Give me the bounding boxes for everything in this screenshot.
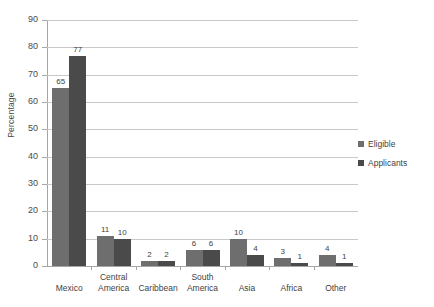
x-axis-tick-mark [314, 266, 315, 270]
chart-legend: EligibleApplicants [358, 139, 434, 177]
bar [291, 263, 308, 266]
y-axis-tick-label: 70 [8, 69, 38, 79]
y-axis-title: Percentage [6, 80, 16, 150]
bar [247, 255, 264, 266]
legend-swatch-icon [358, 141, 364, 147]
legend-label: Eligible [368, 139, 395, 149]
y-axis-tick-label: 0 [8, 260, 38, 270]
legend-label: Applicants [368, 158, 407, 168]
x-axis-tick-mark [136, 266, 137, 270]
bar-value-label: 10 [230, 228, 247, 237]
bar-value-label: 3 [274, 247, 291, 256]
y-axis-tick-label: 10 [8, 233, 38, 243]
legend-item[interactable]: Applicants [358, 158, 434, 168]
bar [69, 56, 86, 266]
x-axis-tick-mark [269, 266, 270, 270]
bar [114, 239, 131, 266]
x-axis-tick-mark [180, 266, 181, 270]
bar [203, 250, 220, 266]
y-axis-tick-label: 90 [8, 14, 38, 24]
x-axis-category-label: Asia [225, 283, 269, 294]
bar-series-group [47, 20, 358, 266]
y-axis-tick-label: 80 [8, 41, 38, 51]
bar-value-label: 10 [114, 228, 131, 237]
bar-value-label: 4 [319, 244, 336, 253]
y-axis-tick-label: 50 [8, 123, 38, 133]
x-axis-category-label: Other [314, 283, 358, 294]
bar-value-label: 77 [69, 45, 86, 54]
bar-value-label: 6 [186, 239, 203, 248]
x-axis-category-label: Mexico [47, 283, 91, 294]
bar [97, 236, 114, 266]
bar-value-label: 1 [291, 252, 308, 261]
bar-value-label: 2 [141, 250, 158, 259]
y-axis-tick-mark [42, 266, 47, 267]
x-axis-category-label: Africa [269, 283, 313, 294]
bar-chart: Percentage 0102030405060708090 657711102… [0, 0, 434, 307]
bar-value-label: 4 [247, 244, 264, 253]
bar [141, 261, 158, 266]
bar [319, 255, 336, 266]
bar-value-label: 6 [203, 239, 220, 248]
x-axis-category-label: Caribbean [136, 283, 180, 294]
y-axis-tick-label: 60 [8, 96, 38, 106]
bar [52, 88, 69, 266]
x-axis-tick-mark [91, 266, 92, 270]
bar-value-label: 65 [52, 77, 69, 86]
y-axis-tick-label: 20 [8, 205, 38, 215]
bar [230, 239, 247, 266]
bar [274, 258, 291, 266]
x-axis-category-label: Central America [91, 272, 135, 294]
y-axis-tick-label: 30 [8, 178, 38, 188]
bar-value-label: 11 [97, 225, 114, 234]
x-axis-category-label: South America [180, 272, 224, 294]
x-axis-line [47, 266, 358, 267]
bar [186, 250, 203, 266]
legend-item[interactable]: Eligible [358, 139, 434, 149]
bar-value-label: 2 [158, 250, 175, 259]
legend-swatch-icon [358, 160, 364, 166]
bar-value-label: 1 [336, 252, 353, 261]
y-axis-tick-label: 40 [8, 151, 38, 161]
bar [158, 261, 175, 266]
x-axis-tick-mark [225, 266, 226, 270]
bar [336, 263, 353, 266]
